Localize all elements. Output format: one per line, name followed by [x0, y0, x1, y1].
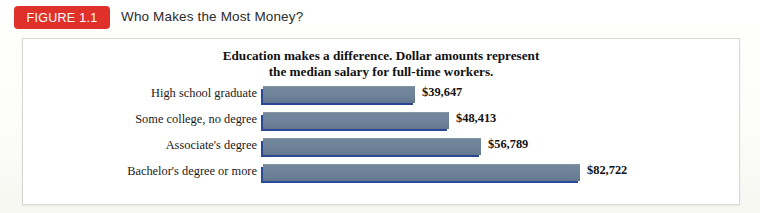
bar-face	[263, 138, 481, 155]
chart-title-line-2: the median salary for full-time workers.	[23, 64, 739, 80]
figure-screenshot: FIGURE 1.1 Who Makes the Most Money? Edu…	[0, 0, 760, 213]
bar-category-label: Some college, no degree	[23, 112, 257, 127]
bar	[263, 138, 481, 157]
bar-row: High school graduate$39,647	[23, 84, 741, 110]
chart-panel: Education makes a difference. Dollar amo…	[22, 38, 740, 205]
bar-value-label: $39,647	[422, 85, 462, 100]
chart-title: Education makes a difference. Dollar amo…	[23, 48, 739, 80]
bar-category-label: High school graduate	[23, 86, 257, 101]
bar-category-label: Associate's degree	[23, 138, 257, 153]
chart-title-line-1: Education makes a difference. Dollar amo…	[23, 48, 739, 64]
bar-face	[263, 86, 415, 103]
figure-number-badge: FIGURE 1.1	[14, 6, 110, 29]
bar-face	[263, 112, 449, 129]
bar-value-label: $56,789	[488, 137, 528, 152]
bar-row: Bachelor's degree or more$82,722	[23, 162, 741, 188]
bar-face	[263, 164, 580, 181]
bar-value-label: $48,413	[456, 111, 496, 126]
bar	[263, 86, 415, 105]
figure-number-label: FIGURE 1.1	[26, 11, 97, 25]
bar-row: Some college, no degree$48,413	[23, 110, 741, 136]
bar	[263, 164, 580, 183]
bar	[263, 112, 449, 131]
bar-category-label: Bachelor's degree or more	[23, 164, 257, 179]
bar-chart-plot: High school graduate$39,647Some college,…	[23, 84, 741, 202]
bar-row: Associate's degree$56,789	[23, 136, 741, 162]
bar-value-label: $82,722	[587, 163, 627, 178]
figure-title: Who Makes the Most Money?	[121, 9, 303, 24]
